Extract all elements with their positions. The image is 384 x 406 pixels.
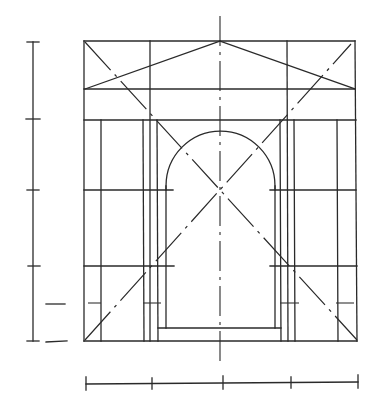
horizontal-scale-bar: [86, 375, 358, 390]
pier-line: [337, 120, 338, 341]
construction-vertical-right: [287, 41, 288, 341]
vertical-scale-bar: [26, 42, 67, 342]
frame-right: [355, 41, 357, 341]
pier-line: [143, 120, 144, 341]
portal-drawing: [0, 0, 384, 406]
pier-line: [280, 120, 281, 341]
left-piers: [101, 120, 166, 341]
diagonals: [85, 42, 357, 340]
pier-line: [294, 120, 295, 341]
horizontal-scale-line: [86, 382, 358, 384]
side-mark: [46, 341, 67, 342]
pier-line: [157, 120, 158, 341]
right-piers: [275, 120, 338, 341]
